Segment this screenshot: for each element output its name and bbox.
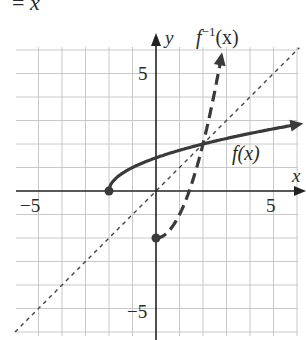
y-axis-label: y <box>163 27 174 48</box>
tick-label-y-5: 5 <box>138 63 148 84</box>
identity-line <box>15 48 299 332</box>
curve-f-inverse <box>156 64 220 238</box>
curve-f-inverse-label: f−1(x) <box>196 24 239 49</box>
curve-f <box>109 125 294 191</box>
y-axis-arrow-icon <box>151 33 161 46</box>
tick-label-x-5: 5 <box>266 195 276 216</box>
tick-label-y-neg5: −5 <box>127 301 147 322</box>
curve-f-inverse-arrow-icon <box>214 52 226 66</box>
function-inverse-graph: −5 5 5 −5 x y f(x) f−1(x) <box>0 0 306 340</box>
x-axis-arrow-icon <box>294 186 306 196</box>
x-axis-label: x <box>291 165 301 186</box>
curve-f-label-text: f(x) <box>232 142 260 165</box>
curve-f-inverse-start-point <box>152 234 161 243</box>
tick-label-x-neg5: −5 <box>20 195 40 216</box>
axes <box>16 33 306 340</box>
curve-f-label: f(x) <box>232 142 260 165</box>
finv-superscript: −1 <box>202 24 216 39</box>
finv-arg: (x) <box>215 26 238 49</box>
curve-f-arrow-icon <box>289 120 303 132</box>
curve-f-start-point <box>105 187 114 196</box>
